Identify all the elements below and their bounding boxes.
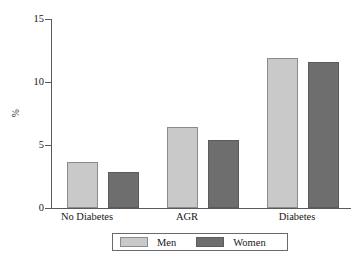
bar-agr-men — [167, 127, 198, 208]
legend-entry-women: Women — [196, 234, 265, 250]
chart-legend: Men Women — [112, 233, 288, 251]
y-tick-label-10: 10 — [0, 77, 44, 87]
legend-entry-men: Men — [120, 234, 176, 250]
legend-label-men: Men — [157, 237, 176, 248]
bar-chart-figure: % 15 10 5 0 No Diabetes AGR Diabetes Men… — [0, 0, 361, 260]
legend-swatch-men-icon — [120, 237, 148, 247]
legend-label-women: Women — [233, 237, 265, 248]
bar-no-diabetes-women — [108, 172, 139, 208]
legend-swatch-women-icon — [196, 237, 224, 247]
bar-no-diabetes-men — [67, 162, 98, 208]
x-tick-label-agr: AGR — [152, 211, 222, 223]
plot-area — [51, 19, 350, 208]
x-axis-line — [51, 208, 351, 209]
y-tick-label-5: 5 — [0, 140, 44, 150]
bar-diabetes-women — [308, 62, 339, 208]
x-tick-label-diabetes: Diabetes — [252, 211, 342, 223]
y-tick-label-15: 15 — [0, 14, 44, 24]
bar-agr-women — [208, 140, 239, 208]
bar-diabetes-men — [267, 58, 298, 208]
y-axis-label: % — [11, 109, 21, 117]
x-tick-label-no-diabetes: No Diabetes — [37, 211, 137, 223]
